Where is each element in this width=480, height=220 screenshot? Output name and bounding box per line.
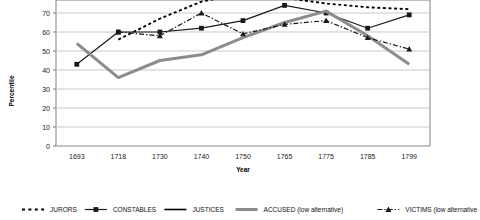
x-tick-label: 1765 [277,153,293,160]
legend-label-1: CONSTABLES [113,206,157,213]
data-point-marker [365,26,370,31]
data-point-marker [74,62,79,67]
data-point-marker [407,13,412,18]
y-tick-label: 20 [42,105,50,112]
data-point-marker [241,18,246,23]
legend-label-2: JUSTICES [192,206,224,213]
y-tick-label: 50 [42,48,50,55]
x-axis-title: Year [236,166,250,173]
chart-container: 010203040506070Percentile169317181730174… [0,0,480,220]
x-tick-label: 1730 [152,153,168,160]
legend-label-4: VICTIMS (low alternative [405,206,477,214]
x-tick-label: 1740 [194,153,210,160]
x-tick-label: 1693 [69,153,85,160]
x-tick-label: 1799 [401,153,417,160]
legend-sample-4 [377,207,399,212]
x-tick-label: 1750 [235,153,251,160]
x-tick-label: 1785 [360,153,376,160]
legend-label-0: JURORS [50,206,77,213]
x-axis: 169317181730174017501765177517851799 [69,153,417,160]
legend: JURORSCONSTABLESJUSTICESACCUSED (low alt… [22,206,478,214]
legend-sample-1 [85,207,107,212]
y-tick-label: 10 [42,124,50,131]
legend-label-3: ACCUSED (low alternative) [264,206,343,214]
x-tick-label: 1718 [111,153,127,160]
y-tick-label: 70 [42,10,50,17]
y-tick-label: 40 [42,67,50,74]
y-tick-label: 30 [42,86,50,93]
percentile-line-chart: 010203040506070Percentile169317181730174… [0,0,480,220]
y-tick-label: 0 [46,143,50,150]
y-axis-title: Percentile [8,75,15,106]
y-tick-label: 60 [42,29,50,36]
y-axis: 010203040506070 [42,10,56,150]
data-point-marker [199,26,204,31]
data-point-marker [282,3,287,8]
x-tick-label: 1775 [318,153,334,160]
